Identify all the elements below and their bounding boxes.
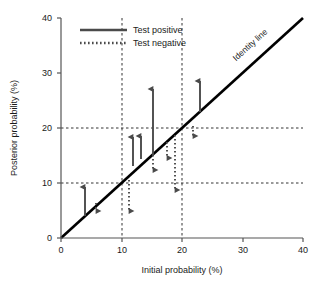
x-tick-label-0: 0 — [58, 245, 63, 255]
y-tick-label-10: 10 — [42, 178, 52, 188]
y-tick-label-0: 0 — [47, 233, 52, 243]
y-tick-label-20: 20 — [42, 123, 52, 133]
x-tick-label-30: 30 — [238, 245, 248, 255]
probability-revision-plot: 0 10 20 30 40 0 10 20 30 40 Initial prob… — [0, 0, 315, 282]
y-axis-label: Posterior probability (%) — [9, 80, 19, 176]
x-tick-label-40: 40 — [298, 245, 308, 255]
legend-label-test-positive: Test positive — [133, 25, 183, 35]
y-tick-label-30: 30 — [42, 68, 52, 78]
x-tick-label-20: 20 — [177, 245, 187, 255]
chart-figure: 0 10 20 30 40 0 10 20 30 40 Initial prob… — [0, 0, 315, 282]
y-tick-label-40: 40 — [42, 13, 52, 23]
legend-label-test-negative: Test negative — [133, 38, 186, 48]
x-tick-label-10: 10 — [117, 245, 127, 255]
x-axis-label: Initial probability (%) — [141, 265, 222, 275]
